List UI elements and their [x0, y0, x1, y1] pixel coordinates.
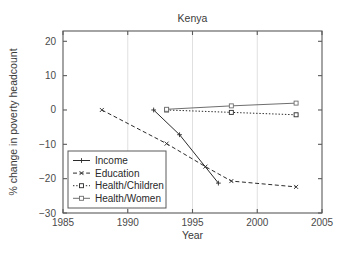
- ytick-label-0: 0: [50, 104, 56, 115]
- ytick-label-10: 10: [45, 70, 57, 81]
- legend-label-1: Education: [95, 168, 139, 179]
- ytick-label--10: −10: [39, 139, 56, 150]
- data-point-3-1: [229, 104, 233, 108]
- xtick-label-2000: 2000: [246, 217, 269, 228]
- xtick-label-1990: 1990: [117, 217, 140, 228]
- ytick-label--30: −30: [39, 208, 56, 219]
- chart-figure: 1985199019952000200520100−10−20−30Year% …: [0, 0, 347, 258]
- ytick-label-20: 20: [45, 36, 57, 47]
- xtick-label-1995: 1995: [181, 217, 204, 228]
- data-point-3-0: [165, 107, 169, 111]
- series-health-women: [165, 101, 299, 111]
- xtick-label-2005: 2005: [311, 217, 334, 228]
- poverty-headcount-line-chart: 1985199019952000200520100−10−20−30Year% …: [0, 0, 347, 258]
- ytick-label--20: −20: [39, 173, 56, 184]
- y-axis-title: % change in poverty headcount: [7, 48, 19, 195]
- legend-marker-3: [80, 196, 84, 200]
- legend-label-2: Health/Children: [95, 180, 164, 191]
- chart-legend: IncomeEducationHealth/ChildrenHealth/Wom…: [68, 151, 166, 208]
- legend-label-0: Income: [95, 155, 128, 166]
- legend-marker-2: [80, 184, 84, 188]
- data-point-2-2: [294, 113, 298, 117]
- data-point-2-1: [229, 110, 233, 114]
- legend-label-3: Health/Women: [95, 193, 161, 204]
- x-axis-title: Year: [182, 229, 204, 241]
- chart-title: Kenya: [178, 12, 208, 24]
- xtick-label-1985: 1985: [52, 217, 75, 228]
- series-health-children: [165, 108, 299, 117]
- data-point-3-2: [294, 101, 298, 105]
